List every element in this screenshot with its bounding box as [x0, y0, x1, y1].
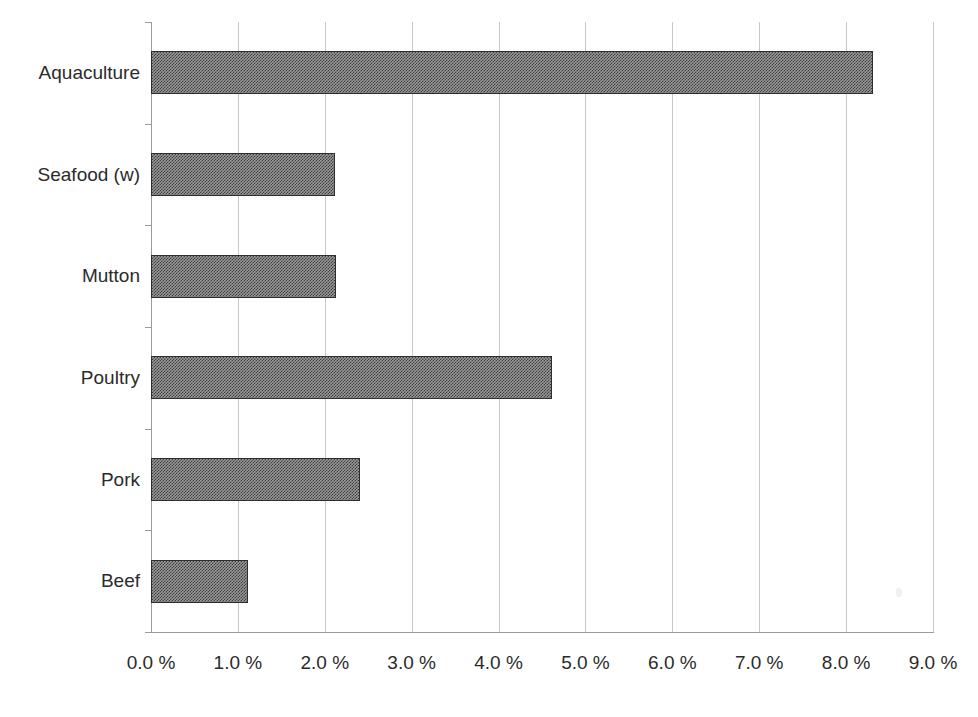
y-axis-label-beef: Beef: [0, 570, 140, 592]
bar-row: [151, 225, 933, 327]
bar-seafood-w[interactable]: [151, 153, 335, 196]
y-axis-label-aquaculture: Aquaculture: [0, 62, 140, 84]
bar-row: [151, 429, 933, 531]
bar-mutton[interactable]: [151, 255, 336, 298]
y-axis-label-seafood-w: Seafood (w): [0, 164, 140, 186]
bar-pork[interactable]: [151, 458, 360, 501]
x-axis-line: [151, 632, 934, 633]
gridline-90: [933, 22, 934, 632]
bar-chart: AquacultureSeafood (w)MuttonPoultryPorkB…: [0, 0, 978, 717]
plot-area: [151, 22, 933, 632]
y-axis-label-mutton: Mutton: [0, 265, 140, 287]
bar-beef[interactable]: [151, 560, 248, 603]
x-axis-label-90: 9.0 %: [873, 650, 978, 676]
bar-row: [151, 530, 933, 632]
scan-artifact: [896, 588, 902, 597]
bar-poultry[interactable]: [151, 356, 552, 399]
bar-aquaculture[interactable]: [151, 51, 873, 94]
y-axis-label-pork: Pork: [0, 469, 140, 491]
bar-row: [151, 22, 933, 124]
y-axis-label-poultry: Poultry: [0, 367, 140, 389]
bar-row: [151, 124, 933, 226]
bar-row: [151, 327, 933, 429]
